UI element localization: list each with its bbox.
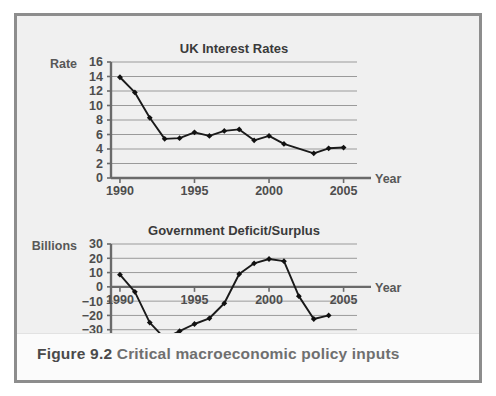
y-tick-label: 16 [89,55,103,69]
x-tick-label: 2000 [255,293,283,307]
y-tick-group: 0246810121416 [89,55,111,185]
data-point-marker [177,135,183,141]
y-tick-label: 6 [96,128,103,142]
y-tick-label: 12 [89,84,103,98]
x-tick-label: 2005 [330,184,358,198]
y-tick-label: 0 [96,171,103,185]
chart-title-uk-interest-rates: UK Interest Rates [180,41,288,56]
figure-caption-label: Critical macroeconomic policy inputs [117,345,400,362]
chart-title-government-deficit-surplus: Government Deficit/Surplus [148,223,320,238]
data-series-line [120,77,344,153]
data-markers [117,74,346,156]
figure-caption: Figure 9.2 Critical macroeconomic policy… [37,345,400,363]
y-axis-title: Billions [32,239,77,253]
y-tick-label: 10 [89,99,103,113]
figure-caption-band: Figure 9.2 Critical macroeconomic policy… [17,333,479,380]
x-tick-label: 1995 [181,184,209,198]
x-tick-label: 2005 [330,293,358,307]
data-point-marker [281,258,287,264]
y-tick-label: 10 [89,266,103,280]
data-point-marker [341,145,347,151]
data-series-line [120,259,329,338]
figure-body: UK Interest Rates02468101214161990199520… [17,16,479,380]
gridlines [111,62,357,178]
x-tick-label: 2000 [255,184,283,198]
y-tick-label: 2 [96,157,103,171]
y-tick-label: 0 [96,280,103,294]
figure-frame: UK Interest Rates02468101214161990199520… [14,13,482,383]
chart-government-deficit-surplus: Government Deficit/Surplus3020100−10−20−… [25,204,405,354]
data-point-marker [326,313,332,319]
x-axis-title: Year [375,172,402,186]
x-axis-title: Year [375,281,402,295]
x-tick-label: 1990 [106,184,134,198]
y-tick-label: 4 [96,142,103,156]
data-point-marker [266,256,272,262]
data-point-marker [221,128,227,134]
gridlines [111,244,357,344]
y-tick-label: 30 [89,237,103,251]
y-axis-title: Rate [50,57,77,71]
data-point-marker [207,133,213,139]
x-tick-group: 1990199520002005 [106,178,357,198]
chart-svg-government-deficit-surplus: Government Deficit/Surplus3020100−10−20−… [25,204,405,354]
x-tick-label: 1995 [181,293,209,307]
chart-svg-uk-interest-rates: UK Interest Rates02468101214161990199520… [25,22,405,202]
y-tick-label: 8 [96,113,103,127]
y-tick-label: −20 [82,309,103,323]
y-tick-label: −10 [82,295,103,309]
chart-uk-interest-rates: UK Interest Rates02468101214161990199520… [25,22,405,202]
figure-number: Figure 9.2 [37,345,112,362]
y-tick-label: 14 [89,70,103,84]
data-point-marker [326,145,332,151]
data-point-marker [192,321,198,327]
x-tick-label: 1990 [106,293,134,307]
data-point-marker [311,150,317,156]
y-tick-label: 20 [89,252,103,266]
